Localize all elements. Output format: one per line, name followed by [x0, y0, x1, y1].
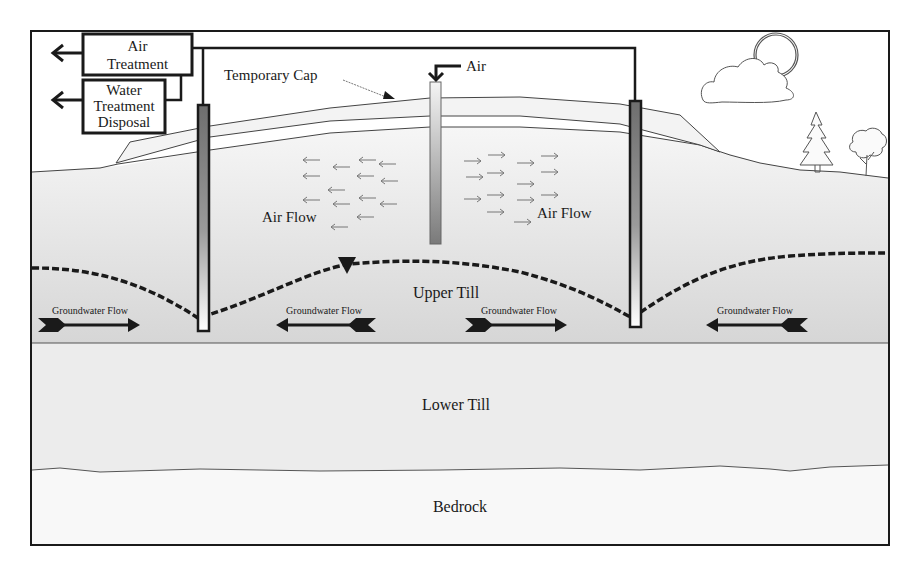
remediation-diagram: Air Treatment Water Treatment Disposal A…	[0, 0, 921, 576]
water-treatment-line2: Treatment	[93, 98, 155, 114]
air-injection-well	[430, 82, 441, 244]
air-injection-label: Air	[466, 58, 486, 74]
water-treatment-line1: Water	[106, 82, 141, 98]
temporary-cap-label: Temporary Cap	[224, 67, 318, 83]
groundwater-flow-label-3: Groundwater Flow	[481, 305, 558, 316]
lower-till-label: Lower Till	[422, 396, 491, 413]
air-flow-label-right: Air Flow	[537, 205, 592, 221]
air-treatment-line2: Treatment	[107, 56, 169, 72]
water-treatment-line3: Disposal	[98, 114, 151, 130]
extraction-well-right	[630, 101, 641, 327]
upper-till-label: Upper Till	[413, 284, 480, 302]
water-treatment-box: Water Treatment Disposal	[83, 80, 165, 133]
air-treatment-box: Air Treatment	[83, 34, 192, 75]
groundwater-flow-label-4: Groundwater Flow	[717, 305, 794, 316]
air-treatment-line1: Air	[128, 38, 148, 54]
extraction-well-left	[198, 105, 209, 331]
bedrock-label: Bedrock	[433, 498, 487, 515]
air-flow-label-left: Air Flow	[262, 209, 317, 225]
groundwater-flow-label-2: Groundwater Flow	[286, 305, 363, 316]
groundwater-flow-label-1: Groundwater Flow	[52, 305, 129, 316]
